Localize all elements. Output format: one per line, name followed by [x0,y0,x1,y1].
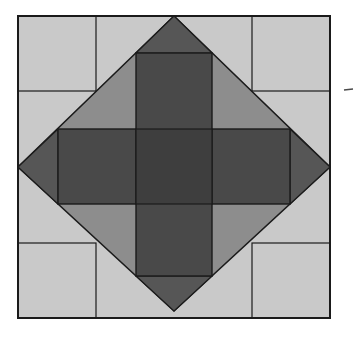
diagram-page [0,0,355,338]
stray-mark [344,89,353,90]
geometry-figure [0,0,355,338]
center-overlap [136,129,212,204]
